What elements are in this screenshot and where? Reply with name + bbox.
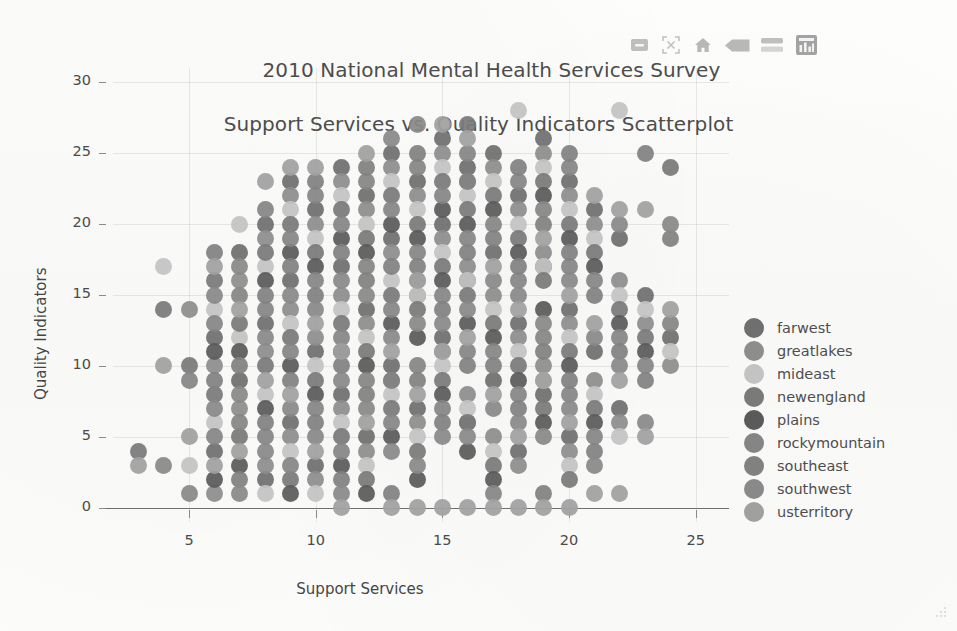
scatter-point[interactable] [561,414,578,431]
scatter-point[interactable] [333,216,350,233]
scatter-point[interactable] [637,145,654,162]
scatter-point[interactable] [662,343,679,360]
scatter-point[interactable] [383,499,400,516]
scatter-point[interactable] [257,244,274,261]
scatter-point[interactable] [434,187,451,204]
scatter-point[interactable] [257,329,274,346]
legend-item-southwest[interactable]: southwest [744,479,885,498]
scatter-point[interactable] [459,130,476,147]
scatter-point[interactable] [383,301,400,318]
scatter-point[interactable] [181,372,198,389]
scatter-point[interactable] [206,428,223,445]
scatter-point[interactable] [409,499,426,516]
scatter-point[interactable] [257,287,274,304]
scatter-point[interactable] [561,145,578,162]
scatter-point[interactable] [611,201,628,218]
scatter-point[interactable] [561,287,578,304]
scatter-point[interactable] [611,372,628,389]
scatter-point[interactable] [434,315,451,332]
scatter-point[interactable] [383,443,400,460]
scatter-point[interactable] [510,159,527,176]
scatter-point[interactable] [383,414,400,431]
scatter-point[interactable] [459,499,476,516]
scatter-point[interactable] [637,201,654,218]
scatter-point[interactable] [231,414,248,431]
scatter-point[interactable] [459,357,476,374]
scatter-point[interactable] [155,258,172,275]
scatter-point[interactable] [561,244,578,261]
scatter-point[interactable] [485,357,502,374]
scatter-point[interactable] [333,272,350,289]
scatter-point[interactable] [333,343,350,360]
scatter-point[interactable] [282,485,299,502]
scatter-point[interactable] [130,457,147,474]
scatter-point[interactable] [535,343,552,360]
scatter-point[interactable] [307,443,324,460]
scatter-point[interactable] [257,372,274,389]
scatter-point[interactable] [561,471,578,488]
scatter-point[interactable] [358,145,375,162]
legend-item-usterritory[interactable]: usterritory [744,502,885,521]
scatter-point[interactable] [383,343,400,360]
scatter-point[interactable] [181,457,198,474]
scatter-point[interactable] [383,201,400,218]
scatter-point[interactable] [282,258,299,275]
scatter-point[interactable] [231,485,248,502]
scatter-point[interactable] [231,443,248,460]
scatter-point[interactable] [434,499,451,516]
scatter-point[interactable] [459,329,476,346]
scatter-point[interactable] [383,130,400,147]
scatter-point[interactable] [206,315,223,332]
scatter-point[interactable] [358,485,375,502]
scatter-point[interactable] [231,357,248,374]
scatter-point[interactable] [307,485,324,502]
legend-item-newengland[interactable]: newengland [744,387,885,406]
scatter-point[interactable] [434,428,451,445]
scatter-point[interactable] [181,428,198,445]
scatter-point[interactable] [485,386,502,403]
scatter-point[interactable] [561,499,578,516]
scatter-point[interactable] [282,343,299,360]
scatter-point[interactable] [535,499,552,516]
scatter-point[interactable] [409,272,426,289]
scatter-point[interactable] [459,443,476,460]
scatter-point[interactable] [611,428,628,445]
scatter-point[interactable] [333,443,350,460]
scatter-point[interactable] [535,272,552,289]
scatter-point[interactable] [383,258,400,275]
scatter-point[interactable] [206,457,223,474]
scatter-point[interactable] [611,102,628,119]
legend-item-southeast[interactable]: southeast [744,456,885,475]
scatter-point[interactable] [510,258,527,275]
scatter-point[interactable] [231,258,248,275]
scatter-point[interactable] [535,230,552,247]
legend-item-rockymountain[interactable]: rockymountain [744,433,885,452]
scatter-point[interactable] [586,187,603,204]
scatter-point[interactable] [409,116,426,133]
scatter-point[interactable] [586,485,603,502]
scatter-plot-area[interactable]: 051015202530510152025 [0,0,957,631]
scatter-point[interactable] [459,173,476,190]
scatter-point[interactable] [333,244,350,261]
scatter-point[interactable] [257,173,274,190]
scatter-point[interactable] [510,457,527,474]
scatter-point[interactable] [333,499,350,516]
scatter-point[interactable] [535,428,552,445]
scatter-point[interactable] [459,244,476,261]
scatter-point[interactable] [282,287,299,304]
scatter-point[interactable] [586,457,603,474]
scatter-point[interactable] [333,372,350,389]
scatter-point[interactable] [434,343,451,360]
scatter-point[interactable] [535,372,552,389]
scatter-point[interactable] [383,216,400,233]
scatter-point[interactable] [181,485,198,502]
scatter-point[interactable] [662,301,679,318]
scatter-point[interactable] [257,201,274,218]
scatter-point[interactable] [611,216,628,233]
scatter-point[interactable] [257,414,274,431]
scatter-point[interactable] [206,400,223,417]
scatter-point[interactable] [307,315,324,332]
scatter-point[interactable] [662,216,679,233]
scatter-point[interactable] [459,428,476,445]
scatter-point[interactable] [510,102,527,119]
